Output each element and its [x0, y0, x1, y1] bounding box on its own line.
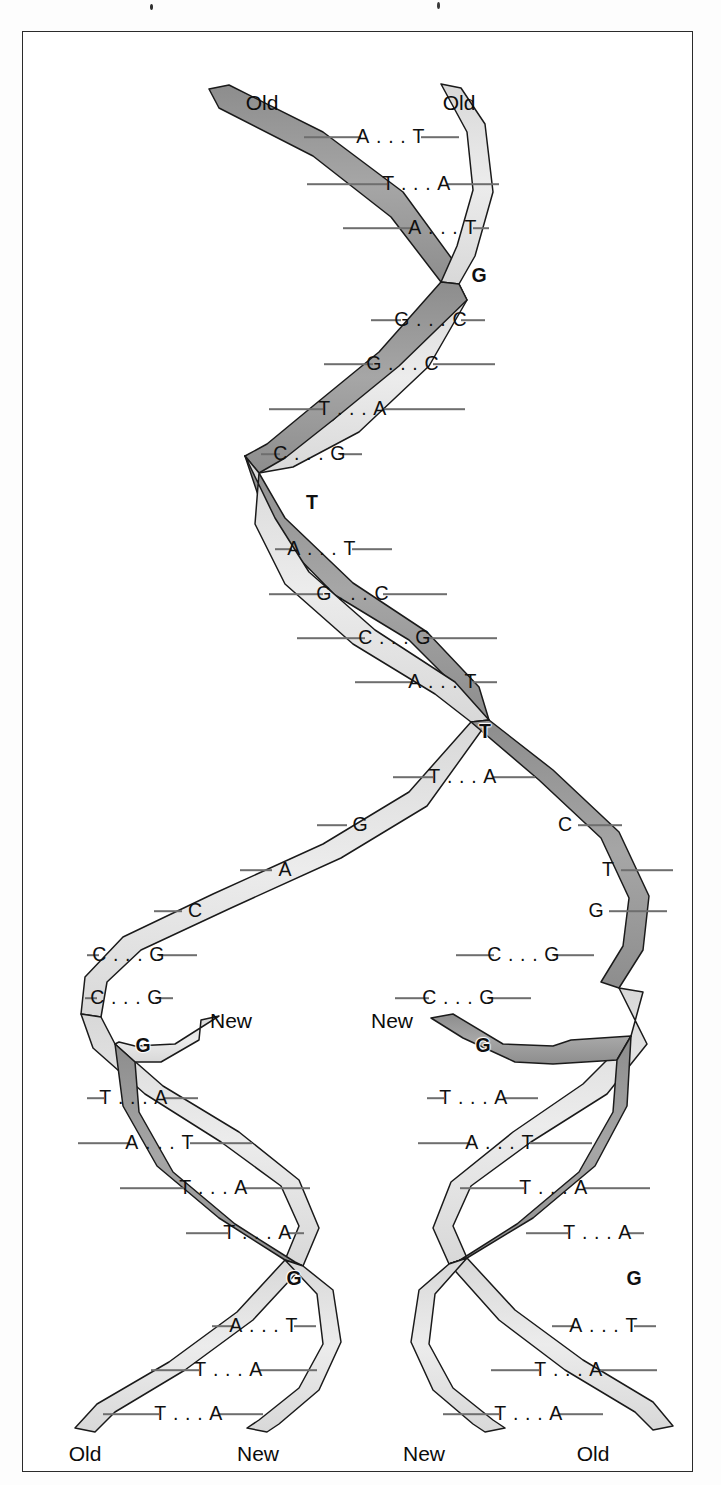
parent-strand-a-seg4-fork-left [81, 720, 489, 1017]
daughter-left-new-strand-seg1 [115, 1016, 219, 1062]
parent-strand-a-seg1 [209, 85, 459, 284]
dna-helix-illustration [23, 32, 693, 1472]
daughter-left-old-strand-seg2 [75, 1260, 303, 1432]
scan-artifact [437, 2, 440, 9]
figure-frame: A . . . TT . . . AA . . . TGG . . . CG .… [22, 31, 693, 1472]
scan-artifact [150, 4, 153, 10]
daughter-right-new-strand-seg1 [431, 1014, 631, 1064]
daughter-right-old-strand-seg2 [449, 1258, 673, 1430]
parent-strand-b-seg4-fork-right [471, 720, 649, 988]
parent-strand-b-seg3 [245, 456, 489, 722]
parent-strand-b-seg2 [245, 282, 467, 473]
